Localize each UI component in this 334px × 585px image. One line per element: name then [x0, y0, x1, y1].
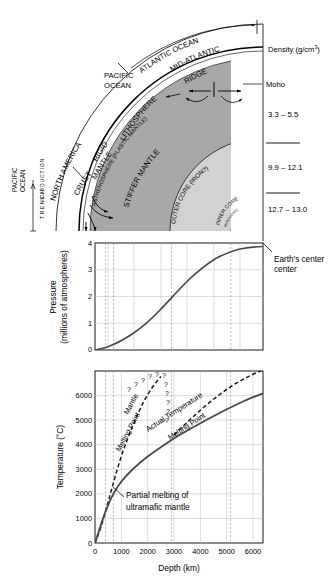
earth-cutaway-diagram: Moho ATLANTIC OCEAN NORTH AMERICA PACIFI…	[11, 20, 285, 241]
temperature-xtick-2000: 2000	[139, 547, 155, 556]
surface-tick-left	[73, 167, 83, 178]
temperature-ytick-0: 0	[88, 539, 92, 548]
inner-core-wedge	[231, 199, 263, 231]
temperature-xtick-3000: 3000	[166, 547, 182, 556]
temperature-ytick-1: 1000	[76, 514, 92, 523]
density-scale: Density (g/cm3) 3.3 – 5.5 9.9 – 12.1 12.…	[266, 44, 320, 214]
density-heading-main: Density (g/cm	[268, 45, 314, 54]
density-value-crust: 3.3 – 5.5	[268, 110, 299, 119]
temperature-ytick-6: 6000	[76, 391, 92, 400]
partial-melting-label-2: ultramafic mantle	[126, 502, 190, 512]
temperature-xtick-0: 0	[93, 547, 97, 556]
label-pacific-ocean-left: PACIFIC	[11, 167, 18, 192]
figure-root: Moho ATLANTIC OCEAN NORTH AMERICA PACIFI…	[0, 0, 334, 585]
q11: ?	[165, 417, 169, 424]
temperature-y-ticks: 0 1000 2000 3000 4000 5000 6000	[76, 391, 92, 547]
q4: ?	[148, 373, 152, 380]
pressure-ytick-0: 0	[88, 345, 92, 354]
q9: ?	[166, 399, 170, 406]
q8: ?	[165, 390, 169, 397]
density-heading: Density (g/cm3)	[268, 44, 320, 54]
density-value-inner-core: 12.7 – 13.0	[268, 205, 308, 214]
pressure-depth-chart: 0 1 2 3 4 Pressure (millions of atmosphe…	[48, 239, 325, 354]
pressure-ytick-3: 3	[88, 265, 92, 274]
label-pacific-ocean-top: PACIFIC	[104, 71, 134, 80]
q7: ?	[164, 381, 168, 388]
pressure-ytick-2: 2	[88, 292, 92, 301]
q3: ?	[141, 377, 145, 384]
q10: ?	[166, 408, 170, 415]
q1: ?	[127, 386, 131, 393]
q5: ?	[155, 371, 159, 378]
temperature-x-ticks: 0 1000 2000 3000 4000 5000 6000	[93, 547, 261, 556]
temperature-depth-chart: 0 1000 2000 3000 4000 5000 6000 0 1000 2…	[55, 370, 263, 573]
temperature-ytick-3: 3000	[76, 465, 92, 474]
density-heading-close: )	[317, 45, 320, 54]
temperature-ytick-2: 2000	[76, 489, 92, 498]
temperature-xtick-6000: 6000	[245, 547, 261, 556]
q6: ?	[162, 372, 166, 379]
density-value-outer-core: 9.9 – 12.1	[268, 163, 303, 172]
figure-svg: Moho ATLANTIC OCEAN NORTH AMERICA PACIFI…	[0, 0, 334, 585]
pressure-y-axis-subtitle: (millions of atmospheres)	[59, 250, 69, 344]
moho-label: Moho	[266, 80, 285, 89]
pressure-ytick-4: 4	[88, 239, 92, 248]
temperature-xtick-1000: 1000	[113, 547, 129, 556]
q2: ?	[134, 381, 138, 388]
temperature-ytick-5: 5000	[76, 416, 92, 425]
earths-center-leader	[263, 243, 272, 252]
temperature-plot-frame	[95, 371, 263, 543]
partial-melting-label: Partial melting of	[126, 490, 189, 500]
earths-center-label-2: center	[274, 265, 297, 274]
label-pacific-ocean-left-2: OCEAN	[19, 169, 26, 192]
label-pacific-ocean-top-2: OCEAN	[104, 81, 131, 90]
earths-center-label: Earth's center	[274, 255, 325, 264]
pressure-y-ticks: 0 1 2 3 4	[88, 239, 92, 354]
temperature-ytick-4: 4000	[76, 440, 92, 449]
label-trench: TRENCH	[39, 189, 45, 219]
pressure-y-axis-title: Pressure	[48, 280, 58, 314]
temperature-y-axis-title: Temperature (°C)	[55, 425, 65, 490]
temperature-x-axis-title: Depth (km)	[158, 563, 200, 573]
pressure-ytick-1: 1	[88, 319, 92, 328]
temperature-xtick-5000: 5000	[218, 547, 234, 556]
temperature-xtick-4000: 4000	[192, 547, 208, 556]
